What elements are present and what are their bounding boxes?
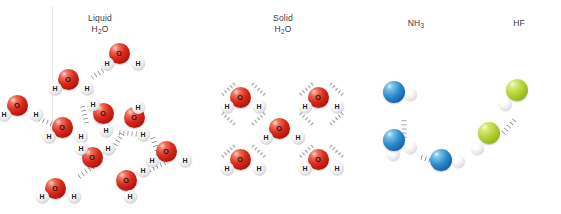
hydrogen-bonding-figure: LiquidH2OHHOHHHHOHHHHOHHHHOHHHHOHHHHOHHH… xyxy=(0,0,561,214)
panel-hydrogen-fluoride xyxy=(0,0,561,214)
hydrogen-atom xyxy=(499,98,512,111)
fluorine-atom xyxy=(506,79,528,101)
hydrogen-atom xyxy=(471,142,484,155)
hydrogen-bond xyxy=(499,115,520,137)
fluorine-atom xyxy=(478,122,500,144)
